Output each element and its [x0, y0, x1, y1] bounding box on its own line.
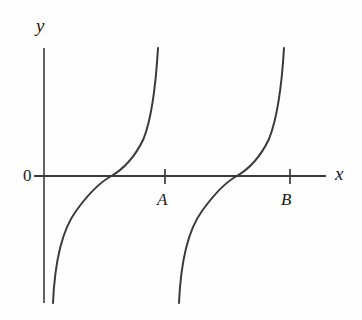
y-axis-label: y	[36, 16, 44, 35]
origin-label: 0	[23, 167, 32, 184]
x-axis-label: x	[335, 164, 343, 183]
tick-label-a: A	[157, 191, 167, 208]
tick-label-b: B	[281, 191, 291, 208]
function-graph-figure: y x 0 A B	[0, 0, 362, 320]
plot-svg	[0, 0, 362, 320]
